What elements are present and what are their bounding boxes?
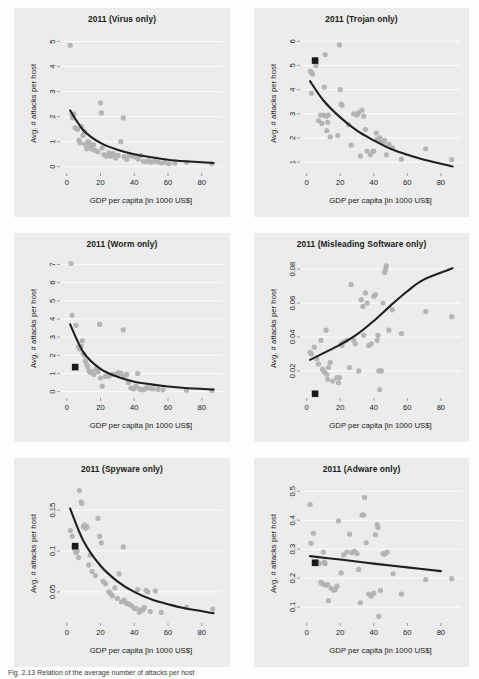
svg-text:80: 80 xyxy=(198,178,206,187)
svg-text:GDP per capita [in 1000 US$]: GDP per capita [in 1000 US$] xyxy=(329,196,432,205)
svg-text:0.15: 0.15 xyxy=(48,503,57,518)
svg-text:0.06: 0.06 xyxy=(288,296,297,311)
panel-spyware: 0204060800.050.10.15GDP per capita [in 1… xyxy=(0,450,240,675)
panel-title-misleading-software: 2011 (Misleading Software only) xyxy=(254,239,469,249)
svg-text:2: 2 xyxy=(48,115,57,119)
svg-text:20: 20 xyxy=(336,628,344,637)
svg-text:5: 5 xyxy=(48,39,57,43)
panel-adware: 0204060800.10.20.30.40.5GDP per capita [… xyxy=(240,450,479,675)
svg-text:GDP per capita [in 1000 US$]: GDP per capita [in 1000 US$] xyxy=(90,646,193,655)
svg-text:40: 40 xyxy=(130,628,138,637)
svg-text:0.04: 0.04 xyxy=(288,330,297,345)
svg-text:0: 0 xyxy=(48,165,57,169)
svg-text:60: 60 xyxy=(164,178,172,187)
svg-text:60: 60 xyxy=(164,403,172,412)
svg-text:5: 5 xyxy=(288,63,297,67)
svg-text:40: 40 xyxy=(370,403,378,412)
panel-misleading-software: 0204060800.020.040.060.08GDP per capita … xyxy=(240,225,479,450)
panel-plot-area-misleading-software: 0204060800.020.040.060.08GDP per capita … xyxy=(254,233,469,442)
svg-text:7: 7 xyxy=(48,262,57,266)
svg-text:0.4: 0.4 xyxy=(288,515,297,526)
svg-text:6: 6 xyxy=(288,39,297,43)
svg-text:5: 5 xyxy=(48,299,57,303)
panel-title-virus: 2011 (Virus only) xyxy=(14,14,230,24)
svg-text:0: 0 xyxy=(48,390,57,394)
svg-text:80: 80 xyxy=(437,628,445,637)
svg-text:20: 20 xyxy=(336,178,344,187)
svg-text:20: 20 xyxy=(96,628,104,637)
panel-title-adware: 2011 (Adware only) xyxy=(254,464,469,474)
figure-container: 020406080012345GDP per capita [in 1000 U… xyxy=(0,0,479,679)
svg-text:6: 6 xyxy=(48,281,57,285)
svg-text:0.1: 0.1 xyxy=(288,602,297,613)
svg-text:40: 40 xyxy=(130,403,138,412)
svg-text:0: 0 xyxy=(65,178,69,187)
svg-text:60: 60 xyxy=(164,628,172,637)
svg-text:3: 3 xyxy=(288,112,297,116)
svg-text:80: 80 xyxy=(437,178,445,187)
svg-text:0: 0 xyxy=(65,628,69,637)
svg-text:60: 60 xyxy=(403,628,411,637)
svg-text:1: 1 xyxy=(48,371,57,375)
panel-grid: 020406080012345GDP per capita [in 1000 U… xyxy=(0,0,479,668)
panel-plot-area-virus: 020406080012345GDP per capita [in 1000 U… xyxy=(14,8,230,217)
svg-text:Avg. # attacks per host: Avg. # attacks per host xyxy=(29,513,38,593)
panel-title-worm: 2011 (Worm only) xyxy=(14,239,230,249)
svg-text:80: 80 xyxy=(437,403,445,412)
panel-plot-area-trojan: 020406080123456GDP per capita [in 1000 U… xyxy=(254,8,469,217)
svg-text:20: 20 xyxy=(96,403,104,412)
plot-svg-trojan: 020406080123456GDP per capita [in 1000 U… xyxy=(254,8,469,217)
svg-text:60: 60 xyxy=(403,178,411,187)
panel-worm: 02040608001234567GDP per capita [in 1000… xyxy=(0,225,240,450)
svg-text:0: 0 xyxy=(305,403,309,412)
svg-text:Avg. # attacks per host: Avg. # attacks per host xyxy=(269,513,278,593)
svg-text:2: 2 xyxy=(48,353,57,357)
svg-text:3: 3 xyxy=(48,335,57,339)
plot-svg-adware: 0204060800.10.20.30.40.5GDP per capita [… xyxy=(254,458,469,667)
svg-text:20: 20 xyxy=(96,178,104,187)
svg-text:40: 40 xyxy=(370,178,378,187)
svg-text:GDP per capita [in 1000 US$]: GDP per capita [in 1000 US$] xyxy=(90,421,193,430)
svg-text:40: 40 xyxy=(370,628,378,637)
svg-text:3: 3 xyxy=(48,89,57,93)
svg-text:Avg. # attacks per host: Avg. # attacks per host xyxy=(29,288,38,368)
svg-text:GDP per capita [in 1000 US$]: GDP per capita [in 1000 US$] xyxy=(90,196,193,205)
panel-trojan: 020406080123456GDP per capita [in 1000 U… xyxy=(240,0,479,225)
svg-text:0.02: 0.02 xyxy=(288,363,297,378)
panel-plot-area-worm: 02040608001234567GDP per capita [in 1000… xyxy=(14,233,230,442)
panel-plot-area-adware: 0204060800.10.20.30.40.5GDP per capita [… xyxy=(254,458,469,667)
svg-text:4: 4 xyxy=(288,87,297,91)
svg-text:4: 4 xyxy=(48,317,57,321)
panel-plot-area-spyware: 0204060800.050.10.15GDP per capita [in 1… xyxy=(14,458,230,667)
svg-text:GDP per capita [in 1000 US$]: GDP per capita [in 1000 US$] xyxy=(329,646,432,655)
plot-svg-spyware: 0204060800.050.10.15GDP per capita [in 1… xyxy=(14,458,230,667)
svg-text:Avg. # attacks per host: Avg. # attacks per host xyxy=(269,63,278,143)
svg-text:0.5: 0.5 xyxy=(288,486,297,497)
panel-virus: 020406080012345GDP per capita [in 1000 U… xyxy=(0,0,240,225)
svg-text:60: 60 xyxy=(403,403,411,412)
svg-text:0.08: 0.08 xyxy=(288,262,297,277)
svg-text:20: 20 xyxy=(336,403,344,412)
panel-title-spyware: 2011 (Spyware only) xyxy=(14,464,230,474)
plot-svg-virus: 020406080012345GDP per capita [in 1000 U… xyxy=(14,8,230,217)
svg-text:1: 1 xyxy=(48,140,57,144)
svg-text:0.2: 0.2 xyxy=(288,573,297,584)
svg-text:Avg. # attacks per host: Avg. # attacks per host xyxy=(29,63,38,143)
figure-caption: Fig. 2.13 Relation of the average number… xyxy=(8,669,308,679)
panel-title-trojan: 2011 (Trojan only) xyxy=(254,14,469,24)
svg-text:40: 40 xyxy=(130,178,138,187)
svg-text:0.3: 0.3 xyxy=(288,544,297,555)
svg-text:1: 1 xyxy=(288,160,297,164)
svg-text:0.1: 0.1 xyxy=(48,546,57,557)
svg-text:80: 80 xyxy=(198,628,206,637)
svg-text:0: 0 xyxy=(65,403,69,412)
svg-text:Avg. # attacks per host: Avg. # attacks per host xyxy=(269,288,278,368)
plot-svg-misleading-software: 0204060800.020.040.060.08GDP per capita … xyxy=(254,233,469,442)
svg-text:80: 80 xyxy=(198,403,206,412)
svg-text:0.05: 0.05 xyxy=(48,585,57,600)
svg-text:GDP per capita [in 1000 US$]: GDP per capita [in 1000 US$] xyxy=(329,421,432,430)
svg-text:0: 0 xyxy=(305,628,309,637)
svg-text:0: 0 xyxy=(305,178,309,187)
plot-svg-worm: 02040608001234567GDP per capita [in 1000… xyxy=(14,233,230,442)
svg-text:2: 2 xyxy=(288,136,297,140)
